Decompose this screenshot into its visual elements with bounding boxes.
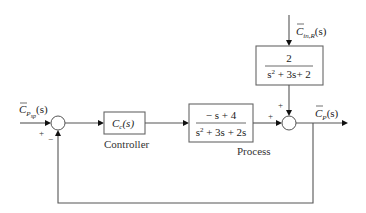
disturbance-output-arrowhead xyxy=(286,110,292,116)
feedback-path xyxy=(58,123,313,203)
process-numerator: − s + 4 xyxy=(206,109,237,121)
process-denominator: s2 + 3s + 2s xyxy=(196,126,247,138)
feedback-arrowhead xyxy=(55,130,61,136)
process-caption: Process xyxy=(237,145,271,157)
process-output-arrowhead xyxy=(276,120,282,126)
comparator-junction xyxy=(51,116,65,130)
controller-caption: Controller xyxy=(104,138,150,150)
output-sum-junction xyxy=(282,116,296,130)
controller-output-arrowhead xyxy=(183,120,189,126)
disturbance-label: Cin,R(s) xyxy=(296,25,327,40)
setpoint-label: CPsp(s) xyxy=(19,103,48,119)
disturbance-input-arrowhead xyxy=(286,40,292,46)
comparator-plus-sign: + xyxy=(39,128,44,138)
output-arrowhead xyxy=(342,120,348,126)
output-label: CP(s) xyxy=(315,107,339,122)
sum-disturbance-plus-sign: + xyxy=(278,100,283,110)
comparator-minus-sign: − xyxy=(48,134,53,144)
block-diagram: + − CPsp(s) Cc(s) Controller − s + 4 s2 … xyxy=(0,0,366,213)
sum-process-plus-sign: + xyxy=(268,111,273,121)
controller-tf: Cc(s) xyxy=(112,117,134,131)
disturbance-numerator: 2 xyxy=(286,52,292,64)
error-arrowhead xyxy=(98,120,104,126)
setpoint-arrowhead xyxy=(45,120,51,126)
